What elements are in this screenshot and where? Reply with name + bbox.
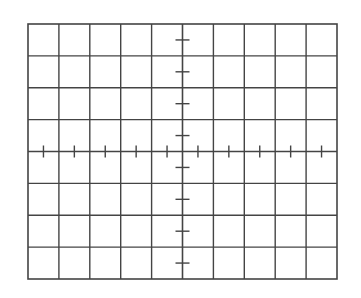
oscilloscope-graticule <box>0 0 361 298</box>
